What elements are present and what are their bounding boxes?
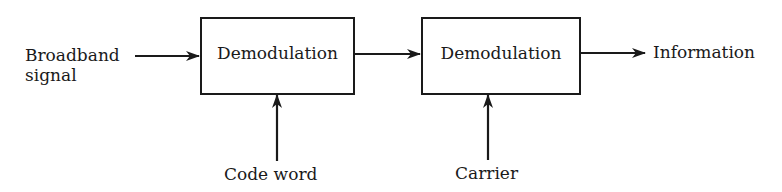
demodulation-block-2-label: Demodulation xyxy=(441,43,562,63)
code-word-label: Code word xyxy=(224,164,317,184)
broadband-signal-label: Broadband signal xyxy=(25,45,120,85)
demodulation-block-1-label: Demodulation xyxy=(217,43,338,63)
information-label: Information xyxy=(653,42,755,62)
demodulation-block-1: Demodulation xyxy=(200,17,355,95)
broadband-label-line2: signal xyxy=(25,65,120,85)
carrier-label: Carrier xyxy=(455,163,518,183)
broadband-label-line1: Broadband xyxy=(25,45,120,65)
arrows-layer xyxy=(0,0,782,192)
demodulation-block-2: Demodulation xyxy=(421,17,581,95)
demodulation-block-diagram: Broadband signal Demodulation Demodulati… xyxy=(0,0,782,192)
